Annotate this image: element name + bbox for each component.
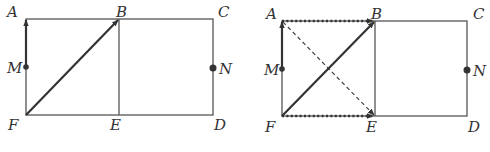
point-M — [279, 66, 285, 72]
point-M — [23, 64, 29, 70]
figure-left: A B C D E F M N — [5, 3, 233, 134]
label-A: A — [264, 5, 277, 23]
label-B: B — [370, 5, 382, 23]
point-N — [464, 67, 471, 74]
label-M: M — [6, 59, 23, 77]
point-N — [210, 65, 217, 72]
label-M: M — [263, 61, 280, 79]
vector-FB — [26, 20, 118, 115]
label-A: A — [5, 3, 18, 21]
label-F: F — [264, 118, 276, 136]
label-N: N — [472, 62, 487, 80]
label-C: C — [218, 3, 230, 21]
label-C: C — [473, 5, 485, 23]
label-N: N — [218, 60, 233, 78]
rectangle-edges — [282, 21, 467, 116]
label-E: E — [365, 118, 377, 136]
rectangle-edges — [26, 19, 213, 115]
label-B: B — [115, 3, 127, 21]
geometry-diagram: A B C D E F M N A B C D E F M N — [0, 0, 490, 152]
vector-FB — [282, 22, 374, 116]
label-D: D — [467, 118, 480, 136]
label-F: F — [7, 116, 19, 134]
label-D: D — [213, 116, 226, 134]
label-E: E — [109, 116, 121, 134]
figure-right: A B C D E F M N — [263, 5, 487, 136]
